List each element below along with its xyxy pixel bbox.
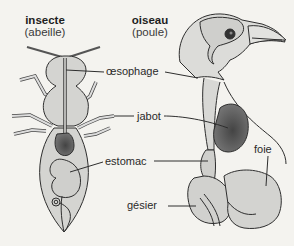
label-oesophagus: œsophage — [106, 66, 159, 77]
label-liver: foie — [254, 144, 272, 155]
bird-drawing — [179, 14, 286, 229]
label-gizzard: gésier — [127, 200, 157, 211]
label-stomach: estomac — [105, 156, 147, 167]
digestive-system-diagram: insecte (abeille) oiseau (poule) — [0, 0, 294, 246]
label-crop: jabot — [137, 111, 161, 122]
insect-drawing — [12, 47, 114, 232]
